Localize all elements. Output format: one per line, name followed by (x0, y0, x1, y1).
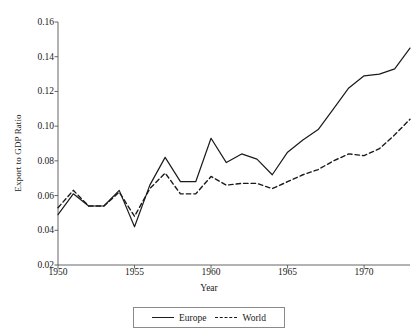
x-tick-label: 1950 (35, 267, 81, 277)
chart-container: Export to GDP Ratio 0.020.040.060.080.10… (0, 0, 418, 336)
x-tick-label: 1960 (188, 267, 234, 277)
chart-legend: Europe World (133, 307, 285, 328)
legend-item-europe: Europe (152, 313, 206, 323)
legend-line-solid-icon (152, 317, 174, 319)
legend-line-dashed-icon (215, 317, 237, 319)
legend-label-world: World (242, 313, 266, 323)
data-series-layer (58, 48, 410, 227)
y-axis-tick-marks (55, 22, 59, 265)
legend-item-world: World (215, 313, 266, 323)
legend-label-europe: Europe (179, 313, 206, 323)
x-tick-label: 1970 (341, 267, 387, 277)
series-line-world (58, 119, 410, 216)
x-tick-label: 1965 (265, 267, 311, 277)
x-axis-title: Year (0, 283, 418, 293)
axis-lines (58, 22, 410, 265)
x-tick-label: 1955 (112, 267, 158, 277)
